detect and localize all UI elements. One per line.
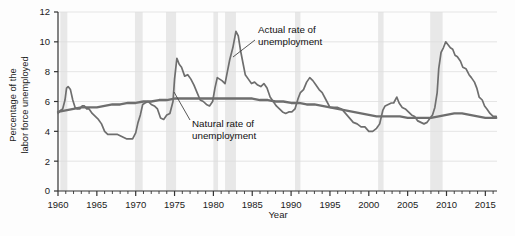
- y-tick-label: 10: [39, 36, 50, 47]
- y-tick-label: 0: [45, 185, 50, 196]
- natural-rate-annotation: Natural rate of unemployment: [192, 118, 257, 141]
- x-tick-label: 1975: [164, 199, 185, 210]
- y-tick-label: 12: [39, 6, 50, 17]
- actual-rate-annotation-line2: unemployment: [258, 36, 323, 47]
- chart-figure: 024681012 196019651970197519801985199019…: [0, 0, 515, 236]
- actual-rate-annotation: Actual rate of unemployment: [258, 24, 323, 47]
- x-tick-label: 1965: [86, 199, 107, 210]
- y-tick-label: 2: [45, 156, 50, 167]
- y-tick-label: 4: [45, 126, 50, 137]
- x-tick-label: 1995: [319, 199, 340, 210]
- x-tick-label: 2000: [358, 199, 379, 210]
- y-axis-title-line2: labor force unemployed: [20, 56, 30, 153]
- y-tick-label: 8: [45, 66, 50, 77]
- x-tick-label: 1960: [47, 199, 68, 210]
- x-tick-label: 1985: [242, 199, 263, 210]
- x-tick-label: 2010: [436, 199, 457, 210]
- x-tick-label: 1970: [125, 199, 146, 210]
- x-tick-label: 1980: [203, 199, 224, 210]
- x-axis-title: Year: [268, 209, 287, 220]
- natural-rate-annotation-line2: unemployment: [192, 130, 257, 141]
- unemployment-chart-svg: 024681012 196019651970197519801985199019…: [0, 0, 515, 236]
- actual-rate-annotation-line1: Actual rate of: [258, 24, 316, 35]
- x-tick-label: 2005: [397, 199, 418, 210]
- x-tick-label: 2015: [475, 199, 496, 210]
- y-axis-title-line1: Percentage of the: [8, 68, 18, 141]
- natural-rate-annotation-line1: Natural rate of: [192, 118, 254, 129]
- y-tick-label: 6: [45, 96, 50, 107]
